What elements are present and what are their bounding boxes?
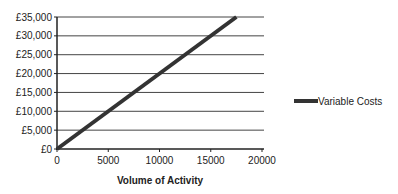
y-tick-label: £20,000: [16, 68, 53, 79]
y-tick-label: £15,000: [16, 87, 53, 98]
x-tick-label: 5000: [97, 155, 120, 166]
x-axis-ticks: 05000100001500020000: [54, 149, 276, 166]
x-axis-label: Volume of Activity: [117, 175, 204, 186]
legend-label: Variable Costs: [318, 96, 382, 107]
x-tick-label: 0: [54, 155, 60, 166]
y-tick-label: £10,000: [16, 106, 53, 117]
variable-costs-chart: £0£5,000£10,000£15,000£20,000£25,000£30,…: [0, 0, 398, 194]
series-line: [57, 17, 236, 149]
y-tick-label: £25,000: [16, 49, 53, 60]
y-tick-label: £30,000: [16, 30, 53, 41]
y-tick-label: £35,000: [16, 12, 53, 23]
y-tick-label: £5,000: [21, 125, 52, 136]
y-axis-ticks: £0£5,000£10,000£15,000£20,000£25,000£30,…: [16, 12, 57, 155]
series-variable-costs: [57, 17, 236, 149]
x-tick-label: 10000: [146, 155, 174, 166]
legend: Variable Costs: [294, 96, 382, 107]
y-tick-label: £0: [41, 144, 53, 155]
x-tick-label: 15000: [197, 155, 225, 166]
x-tick-label: 20000: [248, 155, 276, 166]
